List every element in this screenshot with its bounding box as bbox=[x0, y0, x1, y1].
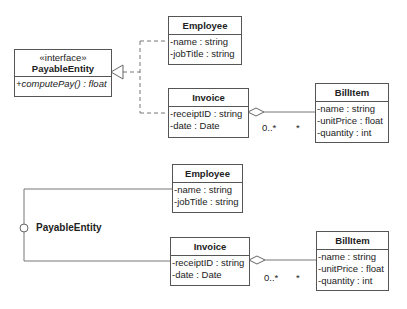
class-header: BillItem bbox=[317, 232, 388, 250]
class-name: BillItem bbox=[335, 235, 369, 246]
interface-lollipop-icon bbox=[20, 224, 28, 232]
attributes-compartment: -name : string -unitPrice : float -quant… bbox=[317, 250, 388, 289]
realization-arrowhead-icon bbox=[111, 65, 123, 79]
class-billitem[interactable]: BillItem -name : string -unitPrice : flo… bbox=[316, 231, 389, 291]
class-header: Employee bbox=[173, 165, 242, 183]
multiplicity-invoice: 0..* bbox=[262, 122, 276, 133]
class-name: Employee bbox=[185, 168, 230, 179]
stereotype-label: «interface» bbox=[17, 52, 109, 63]
attributes-compartment: -receiptID : string -date : Date bbox=[171, 256, 249, 283]
class-name: PayableEntity bbox=[32, 63, 94, 74]
class-invoice[interactable]: Invoice -receiptID : string -date : Date bbox=[168, 88, 249, 138]
class-employee[interactable]: Employee -name : string -jobTitle : stri… bbox=[168, 16, 242, 65]
class-employee[interactable]: Employee -name : string -jobTitle : stri… bbox=[172, 164, 243, 213]
attribute: -name : string bbox=[174, 184, 240, 196]
attributes-compartment: -name : string -jobTitle : string bbox=[169, 35, 241, 62]
attribute: -unitPrice : float bbox=[318, 263, 386, 275]
attribute: -quantity : int bbox=[318, 275, 386, 287]
attribute: -name : string bbox=[318, 251, 386, 263]
aggregation-diamond-icon bbox=[248, 108, 264, 116]
attribute: -receiptID : string bbox=[172, 257, 247, 269]
attributes-compartment: -name : string -jobTitle : string bbox=[173, 183, 242, 210]
class-name: Employee bbox=[183, 20, 228, 31]
class-billitem[interactable]: BillItem -name : string -unitPrice : flo… bbox=[315, 83, 389, 143]
operation: +computePay() : float bbox=[16, 78, 109, 90]
class-name: Invoice bbox=[194, 241, 227, 252]
multiplicity-billitem: * bbox=[296, 122, 300, 133]
multiplicity-invoice: 0..* bbox=[264, 272, 278, 283]
class-header: Invoice bbox=[171, 238, 249, 256]
attributes-compartment: -receiptID : string -date : Date bbox=[169, 107, 248, 134]
attribute: -name : string bbox=[317, 103, 386, 115]
attribute: -date : Date bbox=[172, 269, 247, 281]
attribute: -receiptID : string bbox=[170, 108, 246, 120]
attribute: -name : string bbox=[170, 36, 239, 48]
class-invoice[interactable]: Invoice -receiptID : string -date : Date bbox=[170, 237, 250, 286]
class-header: Employee bbox=[169, 17, 241, 35]
attribute: -quantity : int bbox=[317, 127, 386, 139]
attributes-compartment: -name : string -unitPrice : float -quant… bbox=[316, 102, 388, 141]
class-name: Invoice bbox=[192, 92, 225, 103]
class-header: «interface» PayableEntity bbox=[15, 50, 111, 77]
class-header: Invoice bbox=[169, 89, 248, 107]
realization-connector bbox=[111, 41, 168, 113]
attribute: -jobTitle : string bbox=[170, 48, 239, 60]
operations-compartment: +computePay() : float bbox=[15, 77, 111, 92]
attribute: -date : Date bbox=[170, 120, 246, 132]
multiplicity-billitem: * bbox=[296, 272, 300, 283]
class-name: BillItem bbox=[335, 87, 369, 98]
interface-payableentity[interactable]: «interface» PayableEntity +computePay() … bbox=[14, 49, 112, 97]
class-header: BillItem bbox=[316, 84, 388, 102]
attribute: -unitPrice : float bbox=[317, 115, 386, 127]
aggregation-connector-top bbox=[248, 108, 315, 116]
aggregation-diamond-icon bbox=[249, 256, 265, 264]
interface-lollipop-label: PayableEntity bbox=[36, 222, 102, 233]
attribute: -jobTitle : string bbox=[174, 196, 240, 208]
aggregation-connector-bottom bbox=[249, 256, 316, 264]
